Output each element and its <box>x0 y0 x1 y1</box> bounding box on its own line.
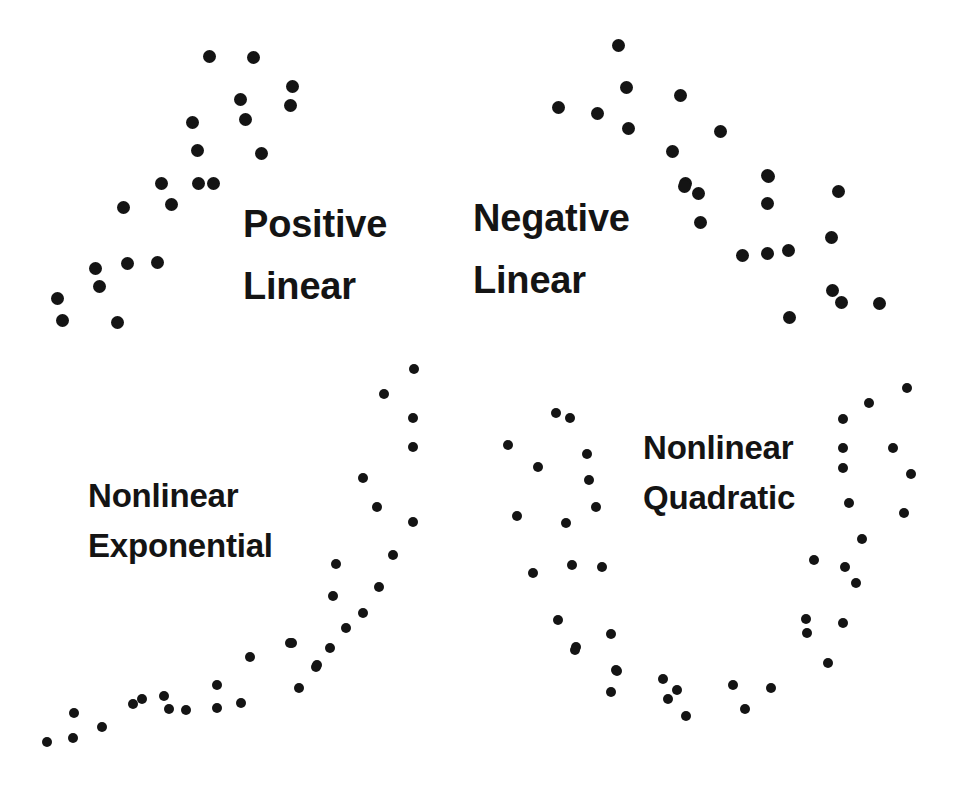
data-point <box>620 81 633 94</box>
data-point <box>606 687 616 697</box>
data-point <box>597 562 607 572</box>
data-point <box>826 284 839 297</box>
data-point <box>674 89 687 102</box>
data-point <box>825 231 838 244</box>
data-point <box>838 414 848 424</box>
data-point <box>565 413 575 423</box>
data-point <box>612 39 625 52</box>
data-point <box>331 559 341 569</box>
data-point <box>255 147 268 160</box>
data-point <box>612 666 622 676</box>
data-point <box>312 660 322 670</box>
data-point <box>761 169 774 182</box>
data-point <box>358 608 368 618</box>
data-point <box>782 244 795 257</box>
data-point <box>97 722 107 732</box>
data-point <box>164 704 174 714</box>
panel-label-negative-linear-line2: Linear <box>473 261 586 299</box>
data-point <box>838 618 848 628</box>
panel-label-nonlinear-quadratic-line2: Quadratic <box>643 481 795 514</box>
data-point <box>658 674 668 684</box>
data-point <box>571 642 581 652</box>
data-point <box>117 201 130 214</box>
data-point <box>388 550 398 560</box>
data-point <box>121 257 134 270</box>
data-point <box>186 116 199 129</box>
data-point <box>740 704 750 714</box>
data-point <box>864 398 874 408</box>
data-point <box>408 413 418 423</box>
panel-label-positive-linear-line2: Linear <box>243 267 356 305</box>
data-point <box>137 694 147 704</box>
data-point <box>857 534 867 544</box>
data-point <box>681 711 691 721</box>
scatter-panel-positive-linear: PositiveLinear <box>0 0 960 794</box>
panel-label-nonlinear-exponential-line1: Nonlinear <box>88 479 238 512</box>
data-point <box>89 262 102 275</box>
data-point <box>56 314 69 327</box>
data-point <box>69 708 79 718</box>
data-point <box>783 311 796 324</box>
data-point <box>591 107 604 120</box>
data-point <box>409 364 419 374</box>
panel-label-nonlinear-quadratic-line1: Nonlinear <box>643 431 793 464</box>
data-point <box>844 498 854 508</box>
data-point <box>191 144 204 157</box>
data-point <box>888 443 898 453</box>
panel-label-nonlinear-exponential-line2: Exponential <box>88 529 273 562</box>
data-point <box>151 256 164 269</box>
data-point <box>694 216 707 229</box>
data-point <box>286 80 299 93</box>
data-point <box>372 502 382 512</box>
data-point <box>128 699 138 709</box>
data-point <box>802 628 812 638</box>
data-point <box>736 249 749 262</box>
data-point <box>42 737 52 747</box>
data-point <box>584 475 594 485</box>
data-point <box>203 50 216 63</box>
data-point <box>873 297 886 310</box>
data-point <box>838 463 848 473</box>
data-point <box>679 177 692 190</box>
data-point <box>379 389 389 399</box>
data-point <box>165 198 178 211</box>
data-point <box>503 440 513 450</box>
scatter-panel-nonlinear-quadratic: NonlinearQuadratic <box>0 0 960 794</box>
data-point <box>678 180 691 193</box>
data-point <box>328 591 338 601</box>
data-point <box>567 560 577 570</box>
data-point <box>553 615 563 625</box>
data-point <box>611 665 621 675</box>
data-point <box>714 125 727 138</box>
data-point <box>906 469 916 479</box>
data-point <box>692 187 705 200</box>
data-point <box>728 680 738 690</box>
data-point <box>672 685 682 695</box>
data-point <box>570 645 580 655</box>
data-point <box>234 93 247 106</box>
data-point <box>408 517 418 527</box>
data-point <box>239 113 252 126</box>
data-point <box>666 145 679 158</box>
data-point <box>533 462 543 472</box>
data-point <box>287 638 297 648</box>
data-point <box>245 652 255 662</box>
data-point <box>236 698 246 708</box>
data-point <box>823 658 833 668</box>
data-point <box>622 122 635 135</box>
data-point <box>341 623 351 633</box>
data-point <box>294 683 304 693</box>
data-point <box>325 643 335 653</box>
data-point <box>358 473 368 483</box>
data-point <box>761 197 774 210</box>
data-point <box>51 292 64 305</box>
data-point <box>207 177 220 190</box>
data-point <box>68 733 78 743</box>
data-point <box>212 703 222 713</box>
panel-label-positive-linear-line1: Positive <box>243 205 387 243</box>
data-point <box>838 443 848 453</box>
data-point <box>766 683 776 693</box>
data-point <box>902 383 912 393</box>
scatter-panel-nonlinear-exponential: NonlinearExponential <box>0 0 960 794</box>
data-point <box>159 691 169 701</box>
